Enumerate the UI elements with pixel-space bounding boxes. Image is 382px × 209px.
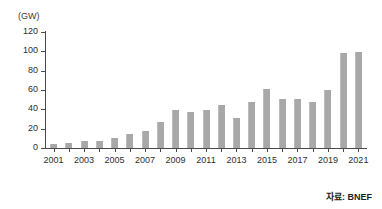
x-tick-label: 2009 — [161, 155, 191, 165]
x-tick-mark — [191, 149, 192, 152]
bar — [65, 143, 72, 148]
bar-chart: (GW) 020406080100120 2001200320052007200… — [0, 0, 382, 209]
y-tick-mark — [41, 51, 45, 52]
x-tick-label: 2007 — [130, 155, 160, 165]
x-tick-mark — [313, 149, 314, 152]
x-tick-mark — [358, 149, 359, 152]
x-tick-mark — [282, 149, 283, 152]
x-tick-mark — [69, 149, 70, 152]
y-tick-mark — [41, 129, 45, 130]
x-tick-mark — [115, 149, 116, 152]
bar — [126, 134, 133, 149]
x-tick-mark — [130, 149, 131, 152]
bar — [294, 99, 301, 148]
x-tick-mark — [176, 149, 177, 152]
y-tick-mark — [41, 32, 45, 33]
bar — [218, 105, 225, 148]
x-tick-mark — [236, 149, 237, 152]
bar — [355, 52, 362, 148]
x-tick-mark — [54, 149, 55, 152]
x-tick-label: 2015 — [252, 155, 282, 165]
x-tick-mark — [145, 149, 146, 152]
x-tick-mark — [206, 149, 207, 152]
x-tick-mark — [221, 149, 222, 152]
x-tick-mark — [267, 149, 268, 152]
y-tick-label: 60 — [12, 85, 38, 94]
bar — [50, 144, 57, 148]
x-tick-label: 2017 — [282, 155, 312, 165]
bar — [340, 53, 347, 148]
bar — [203, 110, 210, 148]
y-tick-label: 0 — [12, 143, 38, 152]
x-tick-mark — [84, 149, 85, 152]
y-tick-label: 40 — [12, 104, 38, 113]
bar — [309, 102, 316, 148]
x-tick-mark — [252, 149, 253, 152]
x-tick-label: 2001 — [39, 155, 69, 165]
x-tick-label: 2005 — [100, 155, 130, 165]
x-tick-mark — [343, 149, 344, 152]
bar — [172, 110, 179, 148]
bar — [248, 102, 255, 148]
bar — [142, 131, 149, 148]
bar — [96, 141, 103, 148]
y-tick-mark — [41, 148, 45, 149]
bar — [111, 138, 118, 148]
bar — [279, 99, 286, 148]
y-tick-mark — [41, 109, 45, 110]
x-tick-label: 2013 — [221, 155, 251, 165]
bar — [187, 112, 194, 148]
x-tick-label: 2021 — [343, 155, 373, 165]
x-tick-label: 2011 — [191, 155, 221, 165]
y-tick-mark — [41, 71, 45, 72]
y-tick-label: 20 — [12, 124, 38, 133]
bar — [324, 90, 331, 148]
x-tick-mark — [160, 149, 161, 152]
y-tick-label: 100 — [12, 46, 38, 55]
y-tick-mark — [41, 90, 45, 91]
bar — [233, 118, 240, 148]
y-tick-label: 120 — [12, 27, 38, 36]
x-tick-mark — [99, 149, 100, 152]
x-tick-label: 2003 — [69, 155, 99, 165]
x-tick-mark — [328, 149, 329, 152]
y-axis-unit-label: (GW) — [18, 11, 40, 21]
bar — [263, 89, 270, 148]
x-tick-mark — [297, 149, 298, 152]
bar — [81, 141, 88, 148]
bar — [157, 122, 164, 148]
x-tick-label: 2019 — [313, 155, 343, 165]
plot-area — [46, 32, 366, 148]
source-note: 자료: BNEF — [326, 190, 372, 203]
y-tick-label: 80 — [12, 66, 38, 75]
